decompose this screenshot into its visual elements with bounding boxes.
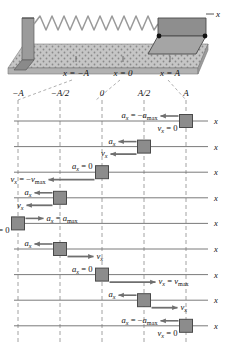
- row-axis-label: x: [213, 167, 218, 177]
- row-axis-label: x: [213, 270, 218, 280]
- row-axis-label: x: [213, 218, 218, 228]
- shm-figure: x x = −A x = 0 x = A −A−A/20A/2A ax = −a: [0, 0, 226, 349]
- acceleration-label: ax = −amax: [122, 315, 159, 326]
- apparatus-label-pos-a: x = A: [159, 68, 180, 78]
- acceleration-label: ax = 0: [72, 264, 93, 275]
- spring-icon: [34, 16, 158, 30]
- apparatus-group: x x = −A x = 0 x = A: [8, 9, 220, 100]
- motion-row-9: ax = −amaxvx = 0x: [14, 315, 218, 339]
- scale-tick-label-0: −A: [12, 88, 24, 98]
- block: [54, 191, 67, 204]
- row-axis-label: x: [213, 295, 218, 305]
- apparatus-label-neg-a: x = −A: [62, 68, 90, 78]
- block: [180, 115, 193, 128]
- acceleration-label: ax = 0: [72, 161, 93, 172]
- apparatus-axis-label: x: [215, 9, 220, 19]
- acceleration-label: ax = −amax: [122, 110, 159, 121]
- velocity-label: vx: [17, 200, 24, 211]
- scale-tick-label-2: 0: [100, 88, 105, 98]
- velocity-label: vx = vmax: [159, 276, 190, 287]
- block: [12, 217, 25, 230]
- velocity-label: vx: [97, 251, 104, 262]
- velocity-label: vx = 0: [157, 123, 177, 134]
- row-axis-label: x: [213, 116, 218, 126]
- motion-rows-group: ax = −amaxvx = 0xaxvxxax = 0vx = −vmaxxa…: [0, 110, 218, 338]
- figure-container: x x = −A x = 0 x = A −A−A/20A/2A ax = −a: [0, 0, 226, 349]
- scale-tick-label-1: −A/2: [51, 88, 70, 98]
- row-axis-label: x: [213, 142, 218, 152]
- scale-ticks-group: −A−A/20A/2A: [12, 88, 189, 98]
- velocity-label: vx = 0: [157, 328, 177, 339]
- block: [180, 319, 193, 332]
- acceleration-label: ax: [108, 136, 115, 147]
- motion-row-7: ax = 0vx = vmaxx: [14, 264, 218, 288]
- acceleration-label: ax = amax: [47, 213, 79, 224]
- velocity-label: vx: [101, 148, 108, 159]
- motion-row-1: ax = −amaxvx = 0x: [14, 110, 218, 134]
- acceleration-label: ax: [24, 238, 31, 249]
- motion-row-4: axvxx: [14, 187, 218, 211]
- scale-tick-label-4: A: [182, 88, 189, 98]
- motion-row-5: ax = amaxvx = 0x: [0, 213, 218, 237]
- velocity-label: vx = 0: [0, 225, 10, 236]
- row-axis-label: x: [213, 244, 218, 254]
- motion-row-6: axvxx: [14, 238, 218, 262]
- motion-row-8: axvxx: [14, 289, 218, 313]
- block: [54, 243, 67, 256]
- apparatus-block: [148, 18, 207, 54]
- velocity-label: vx = −vmax: [10, 174, 46, 185]
- block: [96, 268, 109, 281]
- motion-row-3: ax = 0vx = −vmaxx: [10, 161, 218, 185]
- block: [96, 166, 109, 179]
- acceleration-label: ax: [24, 187, 31, 198]
- row-axis-label: x: [213, 321, 218, 331]
- apparatus-label-zero: x = 0: [112, 68, 133, 78]
- block: [138, 294, 151, 307]
- motion-row-2: axvxx: [14, 136, 218, 160]
- scale-tick-label-3: A/2: [137, 88, 151, 98]
- row-axis-label: x: [213, 193, 218, 203]
- acceleration-label: ax: [108, 289, 115, 300]
- block: [138, 140, 151, 153]
